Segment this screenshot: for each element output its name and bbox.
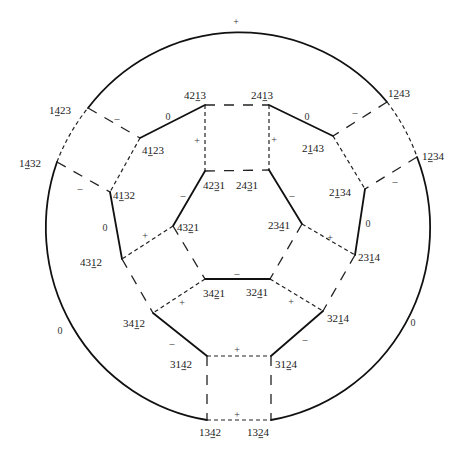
edge-sign-1234-1324: 0 xyxy=(411,317,416,328)
outer-arc-1432-1423 xyxy=(57,108,88,162)
node-3124: 3124 xyxy=(275,358,298,370)
node-1423: 1423 xyxy=(49,104,72,116)
node-3412: 3412 xyxy=(123,317,145,329)
node-1243: 1243 xyxy=(388,87,411,99)
edge-3214-3124 xyxy=(271,311,323,356)
node-2413: 2413 xyxy=(251,89,274,101)
edge-2413-2143 xyxy=(269,105,333,136)
node-4321: 4321 xyxy=(177,221,199,233)
node-2341: 2341 xyxy=(268,219,290,231)
edge-sign-3241-3214: + xyxy=(288,296,294,307)
edge-2341-3241 xyxy=(270,224,302,279)
node-label: 2134 xyxy=(329,186,352,198)
edge-2314-3214 xyxy=(323,255,355,311)
edge-sign-4213-4123: 0 xyxy=(166,111,171,122)
edge-3412-3142 xyxy=(153,313,207,356)
node-3421: 3421 xyxy=(203,287,225,299)
edge-sign-2413-2143: 0 xyxy=(305,111,310,122)
node-label: 2413 xyxy=(251,89,274,101)
node-4231: 4231 xyxy=(203,179,225,191)
edge-4123-4132 xyxy=(110,138,140,192)
node-1432: 1432 xyxy=(19,157,41,169)
node-label: 3421 xyxy=(203,287,225,299)
edge-sign-3412-3142: – xyxy=(169,338,176,349)
edge-4132-4312 xyxy=(110,192,122,259)
edge-sign-1342-1432: 0 xyxy=(58,325,63,336)
node-label: 3241 xyxy=(246,286,268,298)
edge-sign-1234-2134: – xyxy=(392,176,399,187)
edge-sign-1342-1324: + xyxy=(234,409,240,420)
edge-sign-2431-2341: – xyxy=(289,190,296,201)
node-4123: 4123 xyxy=(142,144,165,156)
node-3214: 3214 xyxy=(327,312,350,324)
edge-4321-3421 xyxy=(173,226,205,279)
permutation-graph-diagram: +00+––––0+0+––00++–++––+ 142314321243123… xyxy=(0,0,463,452)
node-label: 3214 xyxy=(327,312,350,324)
node-label: 4213 xyxy=(184,89,207,101)
edge-4231-2431 xyxy=(205,170,269,171)
edge-1234-2134 xyxy=(365,157,417,189)
node-label: 4132 xyxy=(113,189,135,201)
node-4213: 4213 xyxy=(184,89,207,101)
edge-4213-4123 xyxy=(140,105,205,138)
node-label: 1432 xyxy=(19,157,41,169)
node-label: 1342 xyxy=(199,426,221,438)
node-1234: 1234 xyxy=(422,150,445,162)
edge-sign-3214-3124: – xyxy=(302,334,309,345)
node-label: 2314 xyxy=(358,251,381,263)
outer-arc-1243-1234 xyxy=(387,102,417,157)
node-label: 1243 xyxy=(388,87,411,99)
edge-3241-3214 xyxy=(270,279,323,311)
outer-arc-1423-1243 xyxy=(88,32,387,108)
edge-sign-1432-4132: – xyxy=(77,183,84,194)
edge-sign-4321-4312: + xyxy=(142,230,148,241)
node-1324: 1324 xyxy=(247,426,270,438)
edge-sign-3142-3124: + xyxy=(234,344,240,355)
node-label: 2431 xyxy=(236,179,258,191)
node-label: 4123 xyxy=(142,144,165,156)
node-2314: 2314 xyxy=(358,251,381,263)
node-2134: 2134 xyxy=(329,186,352,198)
edge-sign-3421-3241: – xyxy=(234,268,241,279)
edge-2134-2314 xyxy=(355,189,365,255)
node-4132: 4132 xyxy=(113,189,135,201)
edge-2431-2341 xyxy=(269,170,302,224)
node-label: 2143 xyxy=(302,142,325,154)
node-label: 3412 xyxy=(123,317,145,329)
node-3241: 3241 xyxy=(246,286,268,298)
edge-sign-1243-2143: – xyxy=(352,107,359,118)
node-label: 1324 xyxy=(247,426,270,438)
edge-sign-1423-4123: – xyxy=(114,113,121,124)
node-label: 1423 xyxy=(49,104,72,116)
edge-sign-3421-3412: + xyxy=(179,297,185,308)
node-2431: 2431 xyxy=(236,179,258,191)
edge-sign-2413-2431: + xyxy=(271,134,277,145)
edge-4312-3412 xyxy=(122,259,153,313)
edge-1243-2143 xyxy=(333,102,387,136)
node-labels-layer: 1423143212431234421324134123214342312431… xyxy=(19,87,445,438)
edge-sign-4231-4321: – xyxy=(180,190,187,201)
edge-sign-4132-4312: 0 xyxy=(103,222,108,233)
node-label: 3124 xyxy=(275,358,298,370)
node-label: 4312 xyxy=(80,256,102,268)
edge-sign-1423-1243: + xyxy=(233,16,239,27)
node-label: 2341 xyxy=(268,219,290,231)
node-4312: 4312 xyxy=(80,256,102,268)
edge-sign-2341-2314: + xyxy=(327,232,333,243)
node-2143: 2143 xyxy=(302,142,325,154)
edge-sign-2134-2314: 0 xyxy=(366,218,371,229)
node-label: 4231 xyxy=(203,179,225,191)
node-1342: 1342 xyxy=(199,426,221,438)
edge-2143-2134 xyxy=(333,136,365,189)
node-label: 3142 xyxy=(170,358,192,370)
edge-4231-4321 xyxy=(173,171,205,226)
edge-1432-4132 xyxy=(57,162,110,192)
edge-sign-4213-4231: + xyxy=(194,135,200,146)
node-label: 1234 xyxy=(422,150,445,162)
node-label: 4321 xyxy=(177,221,199,233)
node-3142: 3142 xyxy=(170,358,192,370)
